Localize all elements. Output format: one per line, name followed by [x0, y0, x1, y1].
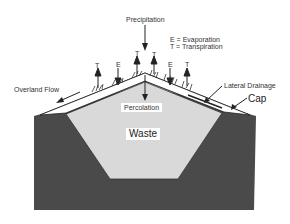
cap-label: Cap [248, 94, 266, 104]
marker-t-1: T [95, 62, 99, 69]
overland-flow-arrow-icon [56, 97, 64, 103]
legend-transpiration: T = Transpiration [170, 43, 223, 50]
landfill-diagram [0, 0, 290, 224]
marker-e-1: E [116, 61, 121, 68]
percolation-label: Percolation [121, 103, 162, 112]
marker-t-4: T [185, 61, 189, 68]
waste-label: Waste [126, 128, 160, 140]
legend-evaporation: E = Evaporation [170, 36, 220, 43]
lateral-drainage-label: Lateral Drainage [224, 82, 276, 89]
overland-flow-label: Overland Flow [14, 86, 59, 93]
marker-e-2: E [168, 61, 173, 68]
marker-t-3: T [152, 51, 156, 58]
precipitation-label: Precipitation [126, 16, 165, 23]
precipitation-arrow-icon [142, 43, 148, 51]
marker-t-2: T [135, 50, 139, 57]
